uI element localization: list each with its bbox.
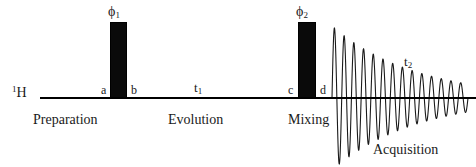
rf-pulse-block-2 <box>298 22 316 98</box>
rf-pulse-block-1 <box>110 22 127 98</box>
timepoint-marker-b: b <box>131 84 137 96</box>
timeline-axis <box>40 97 476 99</box>
t2-subscript: 2 <box>408 60 413 70</box>
timepoint-marker-a: a <box>101 84 106 96</box>
pulse-phase-label-2: ϕ2 <box>296 5 308 19</box>
pulse-sequence-diagram: 1H ϕ1 ϕ2 a b c d t1 t2 Preparation Evolu… <box>0 0 476 167</box>
pulse-phase-label-1: ϕ1 <box>108 5 120 19</box>
evolution-time-label-t1: t1 <box>194 81 202 94</box>
period-label-acquisition: Acquisition <box>373 143 438 157</box>
period-label-evolution: Evolution <box>168 113 223 127</box>
nucleus-element-symbol: H <box>17 85 27 100</box>
timepoint-marker-c: c <box>288 84 293 96</box>
period-label-preparation: Preparation <box>33 113 98 127</box>
phase-subscript-1: 1 <box>115 10 120 20</box>
t1-subscript: 1 <box>198 86 203 96</box>
timepoint-marker-d: d <box>320 84 326 96</box>
nucleus-mass-number: 1 <box>12 84 17 94</box>
nucleus-channel-label: 1H <box>12 85 27 101</box>
acquisition-time-label-t2: t2 <box>404 55 412 68</box>
period-label-mixing: Mixing <box>288 113 329 127</box>
phase-subscript-2: 2 <box>303 10 308 20</box>
